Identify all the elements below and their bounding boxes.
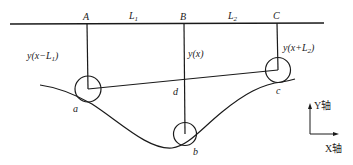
- axis-indicator: Y轴 X轴: [308, 99, 342, 154]
- y-axis-label: Y轴: [314, 99, 331, 111]
- wheel-profile-diagram: A B C L1 L2 y(x−L1) y(x) y(x+L2) a b c d…: [0, 0, 353, 165]
- point-label-b: b: [193, 146, 198, 157]
- rod-c: [277, 23, 278, 70]
- label-y-x: y(x): [187, 48, 204, 60]
- label-y-x-minus-L1: y(x−L1): [26, 50, 59, 63]
- point-label-c: c: [276, 85, 281, 96]
- road-profile-curve: [40, 79, 295, 148]
- label-y-x-plus-L2: y(x+L2): [282, 42, 315, 55]
- x-axis-arrowhead-icon: [333, 132, 339, 136]
- point-label-C: C: [273, 10, 280, 21]
- span-label-L2: L2: [227, 10, 238, 23]
- point-label-a: a: [73, 103, 78, 114]
- span-label-L1: L1: [128, 10, 138, 23]
- point-label-A: A: [82, 11, 90, 22]
- y-axis-arrowhead-icon: [308, 103, 312, 109]
- point-label-d: d: [173, 86, 179, 97]
- point-label-B: B: [180, 11, 186, 22]
- x-axis-label: X轴: [325, 142, 342, 154]
- chord-line-ac: [88, 70, 278, 89]
- rod-a: [87, 24, 88, 89]
